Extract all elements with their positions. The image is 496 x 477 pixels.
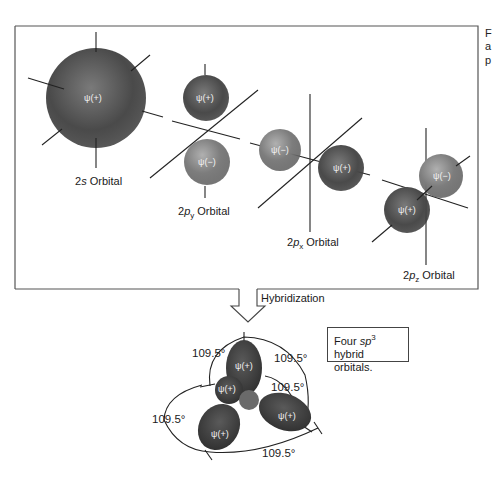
psi-label: ψ(+)	[218, 384, 236, 394]
angle-label: 109.5°	[274, 352, 307, 364]
angle-label: 109.5°	[192, 347, 225, 359]
psi-label: ψ(+)	[398, 205, 416, 215]
psi-label: ψ(+)	[211, 429, 229, 439]
side-caption-fragment: p	[485, 53, 491, 68]
hybridization-label: Hybridization	[261, 292, 325, 304]
orbital-2pz: ψ(−) ψ(+) 2pz Orbital	[372, 128, 470, 284]
orbital-label-2s: 2s Orbital	[75, 175, 122, 187]
sp3-callout-box: Four sp3 hybrid orbitals.	[327, 327, 409, 362]
hybridization-arrow	[231, 289, 265, 322]
psi-label: ψ(+)	[84, 93, 102, 103]
angle-label: 109.5°	[271, 381, 304, 393]
psi-label: ψ(+)	[196, 93, 214, 103]
angle-label: 109.5°	[152, 413, 185, 425]
orbital-label-2pz: 2pz Orbital	[403, 269, 455, 284]
psi-label: ψ(−)	[433, 171, 451, 181]
psi-label: ψ(+)	[235, 361, 253, 371]
orbital-hybridization-diagram: ψ(+) 2s Orbital ψ(+) ψ(−) 2py Orbital ψ(…	[0, 0, 496, 477]
angle-label: 109.5°	[262, 447, 295, 459]
psi-label: ψ(+)	[278, 411, 296, 421]
orbital-2px: ψ(−) ψ(+) 2px Orbital	[250, 94, 370, 251]
orbital-label-2py: 2py Orbital	[178, 205, 230, 220]
orbital-label-2px: 2px Orbital	[287, 236, 339, 251]
psi-label: ψ(+)	[333, 163, 351, 173]
orbital-2s: ψ(+) 2s Orbital	[28, 32, 163, 187]
sp3-hybrid-orbitals: ψ(+) ψ(+) ψ(+) ψ(+) 109.5° 109.5° 109.5°…	[152, 332, 322, 460]
psi-label: ψ(−)	[271, 145, 289, 155]
orbital-2py: ψ(+) ψ(−) 2py Orbital	[150, 64, 258, 220]
psi-label: ψ(−)	[198, 157, 216, 167]
side-caption-fragment: a	[485, 39, 491, 54]
